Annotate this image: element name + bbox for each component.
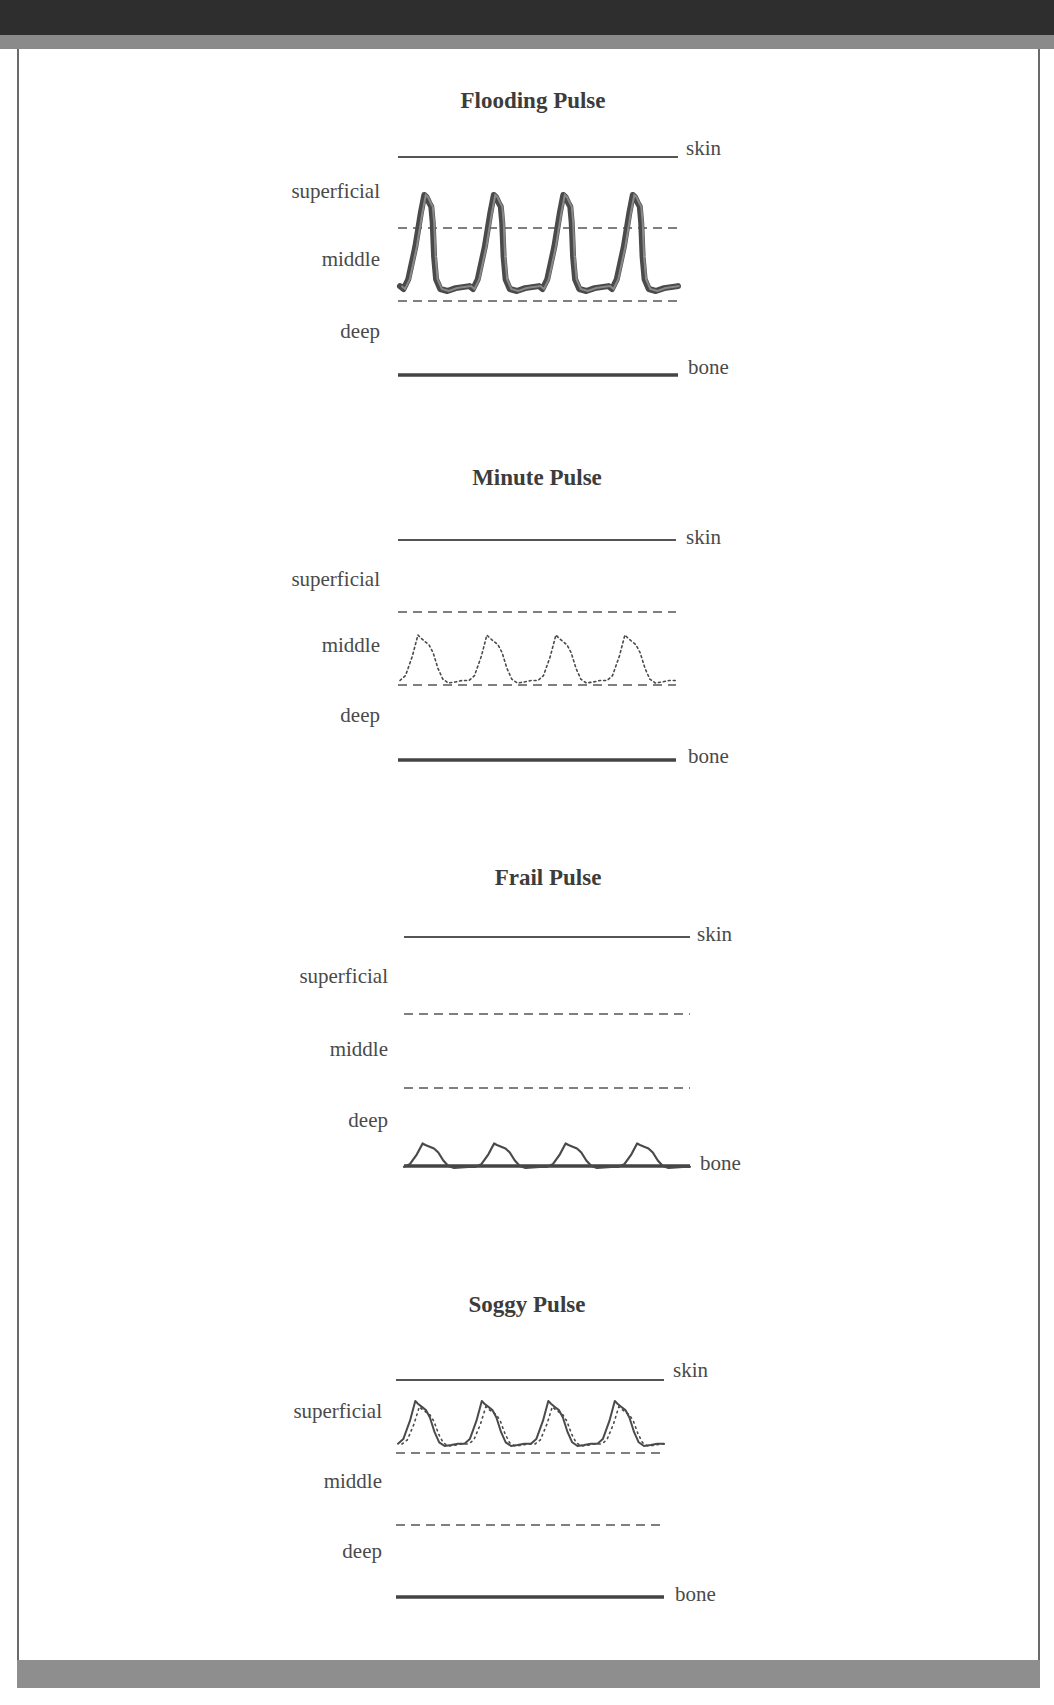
superficial-label: superficial <box>299 964 388 988</box>
skin-label: skin <box>673 1358 709 1382</box>
superficial-label: superficial <box>291 567 380 591</box>
panel-title: Minute Pulse <box>472 465 602 490</box>
middle-label: middle <box>322 247 380 271</box>
bone-label: bone <box>700 1151 741 1175</box>
pulse-waveform <box>400 195 678 291</box>
middle-label: middle <box>324 1469 382 1493</box>
middle-label: middle <box>322 633 380 657</box>
bone-label: bone <box>688 744 729 768</box>
superficial-label: superficial <box>291 179 380 203</box>
deep-label: deep <box>348 1108 388 1132</box>
panel-title: Flooding Pulse <box>460 88 605 113</box>
skin-label: skin <box>686 136 722 160</box>
panel-soggy: Soggy Pulseskinbonesuperficialmiddledeep <box>293 1292 715 1606</box>
panel-title: Soggy Pulse <box>469 1292 586 1317</box>
panel-minute: Minute Pulseskinbonesuperficialmiddledee… <box>291 465 728 768</box>
bone-label: bone <box>675 1582 716 1606</box>
deep-label: deep <box>340 319 380 343</box>
superficial-label: superficial <box>293 1399 382 1423</box>
skin-label: skin <box>697 922 733 946</box>
panel-title: Frail Pulse <box>495 865 602 890</box>
middle-label: middle <box>330 1037 388 1061</box>
skin-label: skin <box>686 525 722 549</box>
pulse-waveform <box>400 635 676 683</box>
pulse-waveform <box>398 1401 664 1446</box>
panel-frail: Frail Pulseskinbonesuperficialmiddledeep <box>299 865 740 1175</box>
pulse-diagrams: Flooding Pulseskinbonesuperficialmiddled… <box>0 0 1054 1705</box>
deep-label: deep <box>340 703 380 727</box>
panel-flooding: Flooding Pulseskinbonesuperficialmiddled… <box>291 88 728 379</box>
bone-label: bone <box>688 355 729 379</box>
deep-label: deep <box>342 1539 382 1563</box>
